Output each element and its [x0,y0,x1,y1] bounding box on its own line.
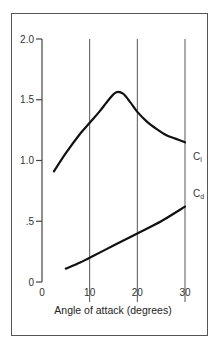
x-tick-label: 30 [179,287,191,298]
y-tick-label: 0 [28,277,34,288]
series-line-cd [66,207,185,269]
y-tick-label: .5 [26,216,35,227]
y-tick-label: 1.0 [20,155,34,166]
series-label-cl: Cl [193,151,202,163]
series-label-cd: Cd [193,188,204,200]
x-tick-label: 0 [39,287,45,298]
series-line-cl [54,92,185,171]
chart: 0.51.01.52.00102030Angle of attack (degr… [0,0,218,354]
series-group [54,92,185,269]
x-tick-label: 10 [84,287,96,298]
labels-group: ClCd [193,151,204,199]
axes: 0.51.01.52.00102030Angle of attack (degr… [20,34,191,317]
y-tick-label: 2.0 [20,34,34,45]
gridlines [90,39,185,302]
y-tick-label: 1.5 [20,94,34,105]
x-axis-title: Angle of attack (degrees) [54,304,171,316]
x-tick-label: 20 [132,287,144,298]
